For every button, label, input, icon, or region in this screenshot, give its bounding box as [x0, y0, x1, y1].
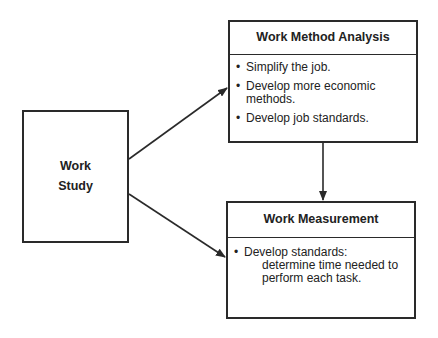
list-item: •Develop job standards.: [236, 112, 408, 125]
work-method-analysis-title: Work Method Analysis: [230, 22, 416, 55]
work-measurement-box: Work Measurement • Develop standards: de…: [226, 201, 416, 319]
bullet-icon: •: [236, 80, 240, 93]
list-item: • Develop standards: determine time need…: [234, 246, 406, 285]
bullet-icon: •: [236, 61, 240, 74]
bullet-icon: •: [236, 112, 240, 125]
arrow-study-to-method: [129, 88, 227, 159]
list-item: •Simplify the job.: [236, 61, 408, 74]
work-method-analysis-box: Work Method Analysis •Simplify the job. …: [228, 20, 418, 143]
work-method-analysis-list: •Simplify the job. •Develop more economi…: [230, 55, 416, 141]
work-study-line2: Study: [24, 176, 127, 196]
list-item: •Develop more economic methods.: [236, 80, 408, 106]
list-item-text: Develop job standards.: [246, 111, 369, 125]
bullet-icon: •: [234, 246, 238, 259]
work-study-label: Work Study: [24, 156, 127, 196]
work-study-box: Work Study: [22, 110, 129, 243]
work-measurement-title: Work Measurement: [228, 203, 414, 238]
work-study-line1: Work: [24, 156, 127, 176]
list-item-continuation: determine time needed to perform each ta…: [244, 259, 406, 285]
list-item-text: Develop more economic methods.: [246, 79, 375, 106]
work-measurement-list: • Develop standards: determine time need…: [228, 238, 414, 317]
list-item-text: Simplify the job.: [246, 60, 331, 74]
arrow-study-to-measurement: [129, 194, 225, 257]
